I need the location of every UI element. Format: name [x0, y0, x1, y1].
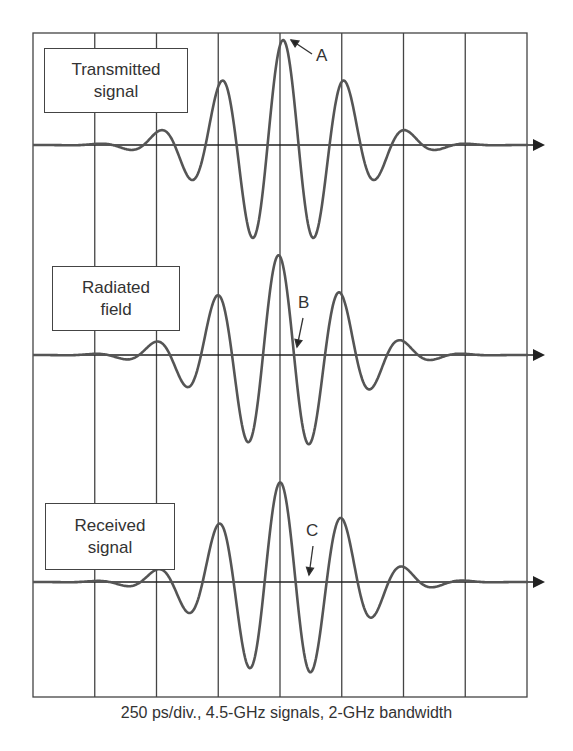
marker-c: C — [306, 521, 318, 541]
transmitted-signal-label: Transmitted signal — [44, 48, 188, 113]
marker-b: B — [298, 293, 309, 313]
label-line-2: field — [53, 299, 179, 321]
radiated-field-label: Radiated field — [52, 266, 180, 331]
received-signal-label: Received signal — [45, 503, 175, 570]
marker-a: A — [316, 46, 327, 66]
label-line-1: Received — [46, 515, 174, 537]
label-line-2: signal — [46, 537, 174, 559]
chart-caption: 250 ps/div., 4.5-GHz signals, 2-GHz band… — [0, 704, 573, 722]
label-line-1: Transmitted — [45, 59, 187, 81]
label-line-1: Radiated — [53, 277, 179, 299]
grid — [33, 33, 527, 697]
label-line-2: signal — [45, 81, 187, 103]
